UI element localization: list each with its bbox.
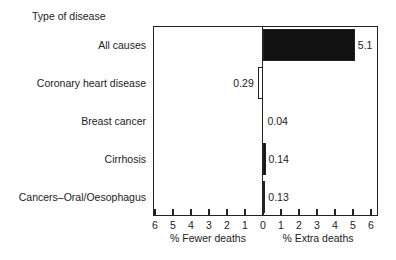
bar: [258, 67, 263, 99]
x-tick: [298, 209, 299, 215]
x-tick-label: 3: [314, 219, 320, 231]
bar: [263, 29, 355, 61]
x-tick-label: 4: [188, 219, 194, 231]
x-tick: [352, 209, 353, 215]
x-tick-label: 3: [206, 219, 212, 231]
x-tick: [280, 209, 281, 215]
value-label: 5.1: [358, 39, 373, 51]
x-tick: [316, 209, 317, 215]
value-label: 0.14: [269, 153, 289, 165]
x-tick: [190, 209, 191, 215]
category-label: Cirrhosis: [105, 153, 146, 165]
x-tick: [370, 209, 371, 215]
bar: [263, 105, 265, 137]
x-tick: [244, 209, 245, 215]
chart-title: Type of disease: [32, 10, 106, 22]
x-tick-label: 0: [260, 219, 266, 231]
x-tick: [208, 209, 209, 215]
x-tick: [154, 209, 155, 215]
x-tick-label: 1: [242, 219, 248, 231]
x-tick-label: 5: [170, 219, 176, 231]
x-tick-label: 4: [332, 219, 338, 231]
category-label: Breast cancer: [81, 115, 146, 127]
x-axis-label-fewer: % Fewer deaths: [170, 232, 246, 244]
category-label: Coronary heart disease: [37, 77, 146, 89]
value-label: 0.13: [268, 191, 288, 203]
x-tick-label: 2: [296, 219, 302, 231]
value-label: 0.04: [268, 115, 288, 127]
x-tick-label: 6: [152, 219, 158, 231]
x-tick-label: 1: [278, 219, 284, 231]
x-tick-label: 2: [224, 219, 230, 231]
x-tick: [334, 209, 335, 215]
value-label: 0.29: [233, 77, 253, 89]
x-tick: [262, 209, 263, 215]
x-tick-label: 6: [368, 219, 374, 231]
category-label: All causes: [98, 39, 146, 51]
x-tick: [172, 209, 173, 215]
x-axis-label-extra: % Extra deaths: [282, 232, 353, 244]
category-label: Cancers–Oral/Oesophagus: [19, 191, 146, 203]
bar: [263, 143, 266, 175]
x-tick: [226, 209, 227, 215]
x-tick-label: 5: [350, 219, 356, 231]
